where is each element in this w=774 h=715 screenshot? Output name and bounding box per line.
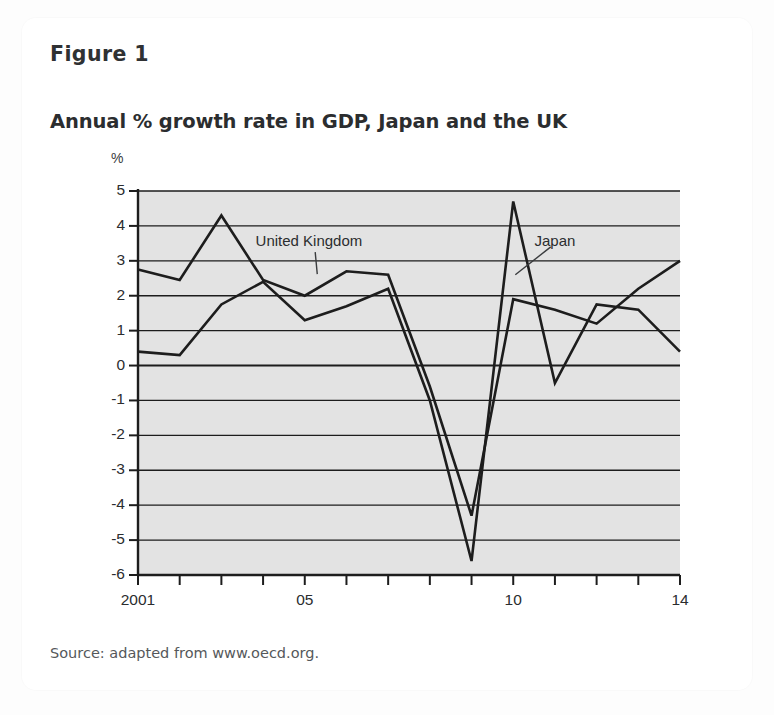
source-note: Source: adapted from www.oecd.org. [50,645,319,661]
series-label-japan: Japan [534,232,575,249]
y-axis-tick-label: 2 [91,286,125,304]
y-axis-tick-label: 0 [91,356,125,374]
y-axis-tick-label: 1 [91,321,125,339]
x-axis-tick-label: 10 [483,591,543,609]
y-axis-tick-label: 3 [91,251,125,269]
y-axis-tick-label: -6 [91,565,125,583]
y-axis-tick-label: 5 [91,181,125,199]
x-axis-tick-label: 05 [275,591,335,609]
figure-page: Figure 1 Annual % growth rate in GDP, Ja… [0,0,774,715]
series-label-united-kingdom: United Kingdom [256,232,363,249]
line-chart: 543210-1-2-3-4-5-6 2001051014 United Kin… [0,0,774,715]
y-axis-tick-label: -5 [91,530,125,548]
x-axis-tick-label: 2001 [108,591,168,609]
y-axis-tick-label: -1 [91,390,125,408]
y-axis-tick-label: 4 [91,216,125,234]
x-axis-tick-label: 14 [650,591,710,609]
plot-background-group [138,191,680,575]
y-axis-tick-label: -4 [91,495,125,513]
plot-background [138,191,680,575]
y-axis-tick-label: -3 [91,460,125,478]
y-tick-marks-group [129,191,138,575]
y-axis-tick-label: -2 [91,425,125,443]
x-tick-marks-group [138,575,680,585]
